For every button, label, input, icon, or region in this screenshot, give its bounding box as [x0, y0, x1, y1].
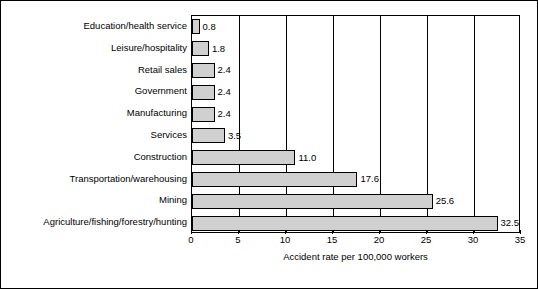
- category-label: Government: [135, 80, 187, 102]
- category-label: Mining: [159, 189, 187, 211]
- bar-row: 1.8: [192, 38, 519, 60]
- bar-value-label: 17.6: [360, 171, 379, 187]
- bar-value-label: 25.6: [436, 193, 455, 209]
- bar-row: 2.4: [192, 103, 519, 125]
- x-axis-ticks: 05101520253035: [191, 234, 520, 248]
- bar-row: 2.4: [192, 60, 519, 82]
- x-axis-title: Accident rate per 100,000 workers: [191, 251, 520, 262]
- bar: [192, 128, 225, 143]
- bar-value-label: 32.5: [501, 215, 520, 231]
- bar-row: 25.6: [192, 190, 519, 212]
- bar-value-label: 2.4: [218, 106, 231, 122]
- bar: [192, 63, 215, 78]
- x-tick-label: 35: [515, 234, 526, 245]
- bar-value-label: 3.5: [228, 128, 241, 144]
- plot-area: 0.81.82.42.42.43.511.017.625.632.5: [191, 15, 520, 233]
- category-label: Services: [151, 124, 187, 146]
- bar: [192, 194, 433, 209]
- x-tick-label: 15: [327, 234, 338, 245]
- bar-row: 32.5: [192, 212, 519, 234]
- bar-row: 11.0: [192, 147, 519, 169]
- category-label: Leisure/hospitality: [111, 37, 187, 59]
- bar-value-label: 1.8: [212, 41, 225, 57]
- bar: [192, 216, 498, 231]
- category-label: Retail sales: [138, 59, 187, 81]
- category-label: Construction: [134, 146, 187, 168]
- category-label: Manufacturing: [127, 102, 187, 124]
- x-tick-label: 10: [280, 234, 291, 245]
- bar-value-label: 0.8: [203, 19, 216, 35]
- x-tick-label: 0: [188, 234, 193, 245]
- bar-row: 3.5: [192, 125, 519, 147]
- bar-value-label: 2.4: [218, 62, 231, 78]
- accident-rate-bar-chart: Education/health serviceLeisure/hospital…: [0, 0, 538, 289]
- x-tick-label: 25: [421, 234, 432, 245]
- bar: [192, 107, 215, 122]
- bar: [192, 19, 200, 34]
- x-tick-label: 30: [468, 234, 479, 245]
- bar-row: 17.6: [192, 169, 519, 191]
- bar-value-label: 2.4: [218, 84, 231, 100]
- category-axis-labels: Education/health serviceLeisure/hospital…: [1, 15, 187, 233]
- bar: [192, 85, 215, 100]
- category-label: Education/health service: [83, 15, 187, 37]
- bar-row: 0.8: [192, 16, 519, 38]
- x-tick-label: 20: [374, 234, 385, 245]
- bar: [192, 41, 209, 56]
- bar-row: 2.4: [192, 81, 519, 103]
- bar: [192, 150, 295, 165]
- bar-value-label: 11.0: [298, 150, 316, 166]
- x-tick-label: 5: [235, 234, 240, 245]
- category-label: Transportation/warehousing: [70, 168, 187, 190]
- category-label: Agriculture/fishing/forestry/hunting: [43, 211, 187, 233]
- bar: [192, 172, 357, 187]
